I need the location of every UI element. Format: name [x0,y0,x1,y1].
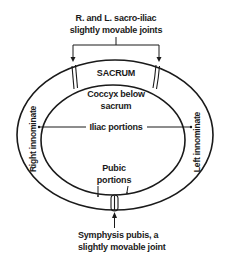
left-innominate-label: Left innominate [192,111,202,172]
right-innominate-label: Right innominate [28,105,38,172]
pubic-label-line1: Pubic [102,163,126,173]
sacrum-label: SACRUM [97,68,135,78]
sacroiliac-label-line2: slightly movable joints [70,25,163,35]
pubic-label-line2: portions [97,175,132,185]
symphysis-pointer [112,212,117,228]
pelvic-ring-diagram: R. and L. sacro-iliac slightly movable j… [0,0,228,265]
sacroiliac-pointer [71,37,162,62]
coccyx-label-line1: Coccyx below [87,89,146,99]
coccyx-label-line2: sacrum [101,101,132,111]
outer-ring [17,60,213,210]
sacroiliac-label-line1: R. and L. sacro-iliac [76,13,157,23]
symphysis-pubis-joint [111,195,118,211]
right-sacroiliac-joint [72,65,78,89]
iliac-portions-label: Iliac portions [89,122,142,132]
symphysis-label-line2: slightly movable joint [78,242,166,252]
symphysis-label-line1: Symphysis pubis, a [78,230,160,240]
